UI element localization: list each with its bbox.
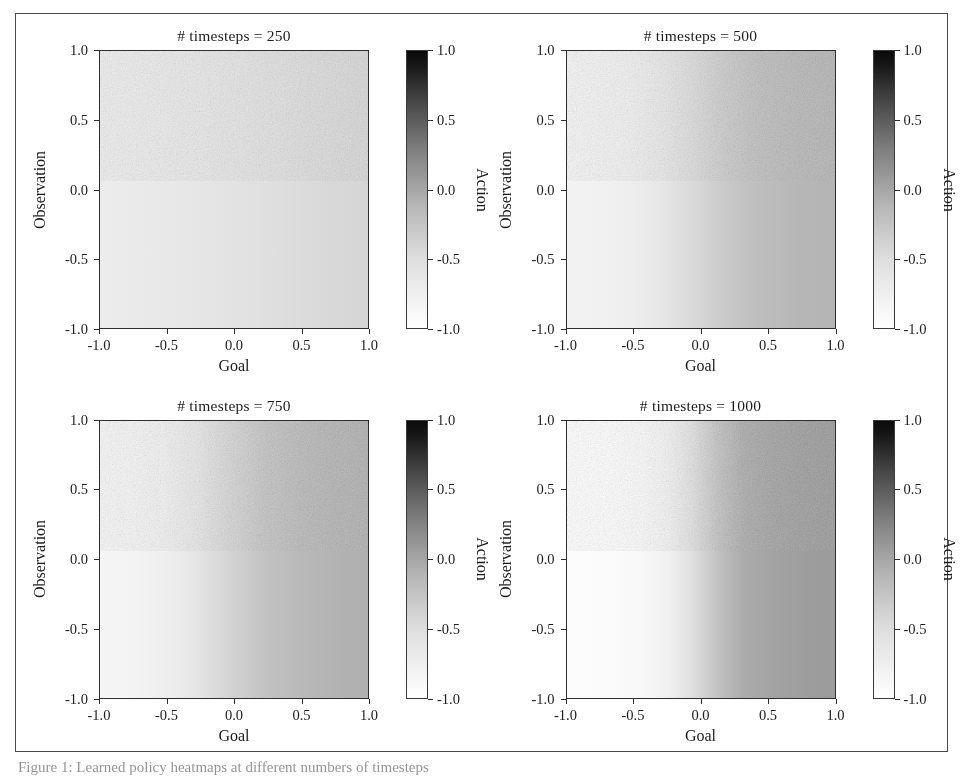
colorbar-tick-label: 1.0 [437, 411, 455, 428]
colorbar-tick [895, 190, 900, 191]
y-tick-label: 1.0 [70, 411, 88, 428]
colorbar-tick-label: -1.0 [437, 321, 460, 338]
x-tick [633, 329, 634, 334]
panel-timesteps-1000: # timesteps = 1000 Observation -1.0 -0.5… [483, 384, 950, 754]
x-tick-label: 0.5 [292, 707, 310, 724]
panel-timesteps-500: # timesteps = 500 Observation -1.0 -0.5 … [483, 14, 950, 384]
colorbar-tick [895, 420, 900, 421]
x-tick-label: -0.5 [622, 707, 645, 724]
panel-timesteps-750: # timesteps = 750 Observation -1.0 -0.5 … [16, 384, 483, 754]
heatmap-grain-light [99, 420, 369, 551]
x-tick-label: -0.5 [622, 337, 645, 354]
x-axis-label: Goal [566, 727, 836, 745]
y-axis-label: Observation [497, 50, 517, 329]
colorbar-tick [428, 420, 433, 421]
y-tick-label: -0.5 [532, 620, 555, 637]
x-tick-label: 1.0 [826, 707, 844, 724]
colorbar-tick-label: -1.0 [904, 321, 927, 338]
y-tick [561, 489, 566, 490]
x-tick-label: 1.0 [826, 337, 844, 354]
axes-area: -1.0 -0.5 0.0 0.5 1.0 1.0 0.5 0.0 -0.5 -… [566, 50, 836, 329]
x-tick-label: -1.0 [88, 337, 111, 354]
colorbar-tick-label: -0.5 [437, 620, 460, 637]
x-tick-label: 0.5 [759, 337, 777, 354]
colorbar-gradient [873, 50, 895, 329]
heatmap-grain-light [99, 50, 369, 181]
y-tick-label: -1.0 [65, 690, 88, 707]
x-axis-label: Goal [99, 727, 369, 745]
x-tick [99, 329, 100, 334]
colorbar-tick [428, 699, 433, 700]
colorbar-tick [895, 329, 900, 330]
colorbar-tick [428, 489, 433, 490]
panel-title: # timesteps = 500 [566, 27, 836, 45]
colorbar: 1.0 0.5 0.0 -0.5 -1.0 Action [873, 420, 895, 699]
x-tick [234, 699, 235, 704]
colorbar-gradient [406, 420, 428, 699]
colorbar-tick-label: -0.5 [437, 251, 460, 268]
x-tick [768, 699, 769, 704]
colorbar-label: Action [939, 420, 959, 699]
y-tick-label: -1.0 [532, 690, 555, 707]
colorbar: 1.0 0.5 0.0 -0.5 -1.0 Action [873, 50, 895, 329]
colorbar-tick [428, 190, 433, 191]
colorbar-tick-label: 1.0 [904, 42, 922, 59]
colorbar-tick [895, 489, 900, 490]
colorbar-tick [895, 259, 900, 260]
y-tick [94, 120, 99, 121]
x-tick [302, 329, 303, 334]
y-tick-label: -0.5 [532, 251, 555, 268]
x-axis-label: Goal [566, 357, 836, 375]
x-tick-label: 0.5 [292, 337, 310, 354]
colorbar-tick-label: 0.0 [437, 551, 455, 568]
heatmap-grain-light [566, 50, 836, 181]
panel-timesteps-250: # timesteps = 250 Observation -1.0 -0.5 … [16, 14, 483, 384]
y-tick-label: 0.0 [536, 551, 554, 568]
colorbar-tick-label: 0.5 [904, 111, 922, 128]
x-tick-label: -1.0 [88, 707, 111, 724]
y-tick [94, 559, 99, 560]
y-tick [561, 120, 566, 121]
colorbar-tick-label: -1.0 [904, 690, 927, 707]
y-tick-label: 1.0 [536, 42, 554, 59]
colorbar-tick-label: -0.5 [904, 251, 927, 268]
x-tick [369, 699, 370, 704]
x-axis-label: Goal [99, 357, 369, 375]
colorbar-gradient [873, 420, 895, 699]
colorbar-tick-label: 1.0 [904, 411, 922, 428]
x-tick [701, 699, 702, 704]
y-tick [561, 329, 566, 330]
y-tick-label: 0.0 [70, 181, 88, 198]
y-tick [94, 699, 99, 700]
colorbar: 1.0 0.5 0.0 -0.5 -1.0 Action [406, 50, 428, 329]
colorbar-tick-label: -1.0 [437, 690, 460, 707]
x-tick [167, 329, 168, 334]
x-tick [633, 699, 634, 704]
y-tick [561, 190, 566, 191]
y-tick-label: 0.5 [70, 481, 88, 498]
x-tick-label: 0.0 [225, 707, 243, 724]
colorbar-tick-label: 0.5 [437, 481, 455, 498]
x-tick-label: -0.5 [155, 707, 178, 724]
y-tick [94, 420, 99, 421]
y-tick-label: -0.5 [65, 251, 88, 268]
x-tick [566, 699, 567, 704]
x-tick [701, 329, 702, 334]
y-tick [561, 259, 566, 260]
colorbar-tick-label: 0.0 [904, 181, 922, 198]
y-tick-label: -0.5 [65, 620, 88, 637]
x-tick-label: 0.0 [225, 337, 243, 354]
colorbar-label: Action [939, 50, 959, 329]
panel-title: # timesteps = 1000 [566, 397, 836, 415]
y-tick-label: 1.0 [536, 411, 554, 428]
heatmap-grain-light [566, 420, 836, 551]
y-tick [561, 50, 566, 51]
y-tick [561, 629, 566, 630]
colorbar-tick-label: 0.0 [904, 551, 922, 568]
y-tick-label: 1.0 [70, 42, 88, 59]
y-tick [561, 559, 566, 560]
x-tick-label: -0.5 [155, 337, 178, 354]
y-tick [94, 50, 99, 51]
axes-area: -1.0 -0.5 0.0 0.5 1.0 1.0 0.5 0.0 -0.5 -… [99, 420, 369, 699]
x-tick [99, 699, 100, 704]
